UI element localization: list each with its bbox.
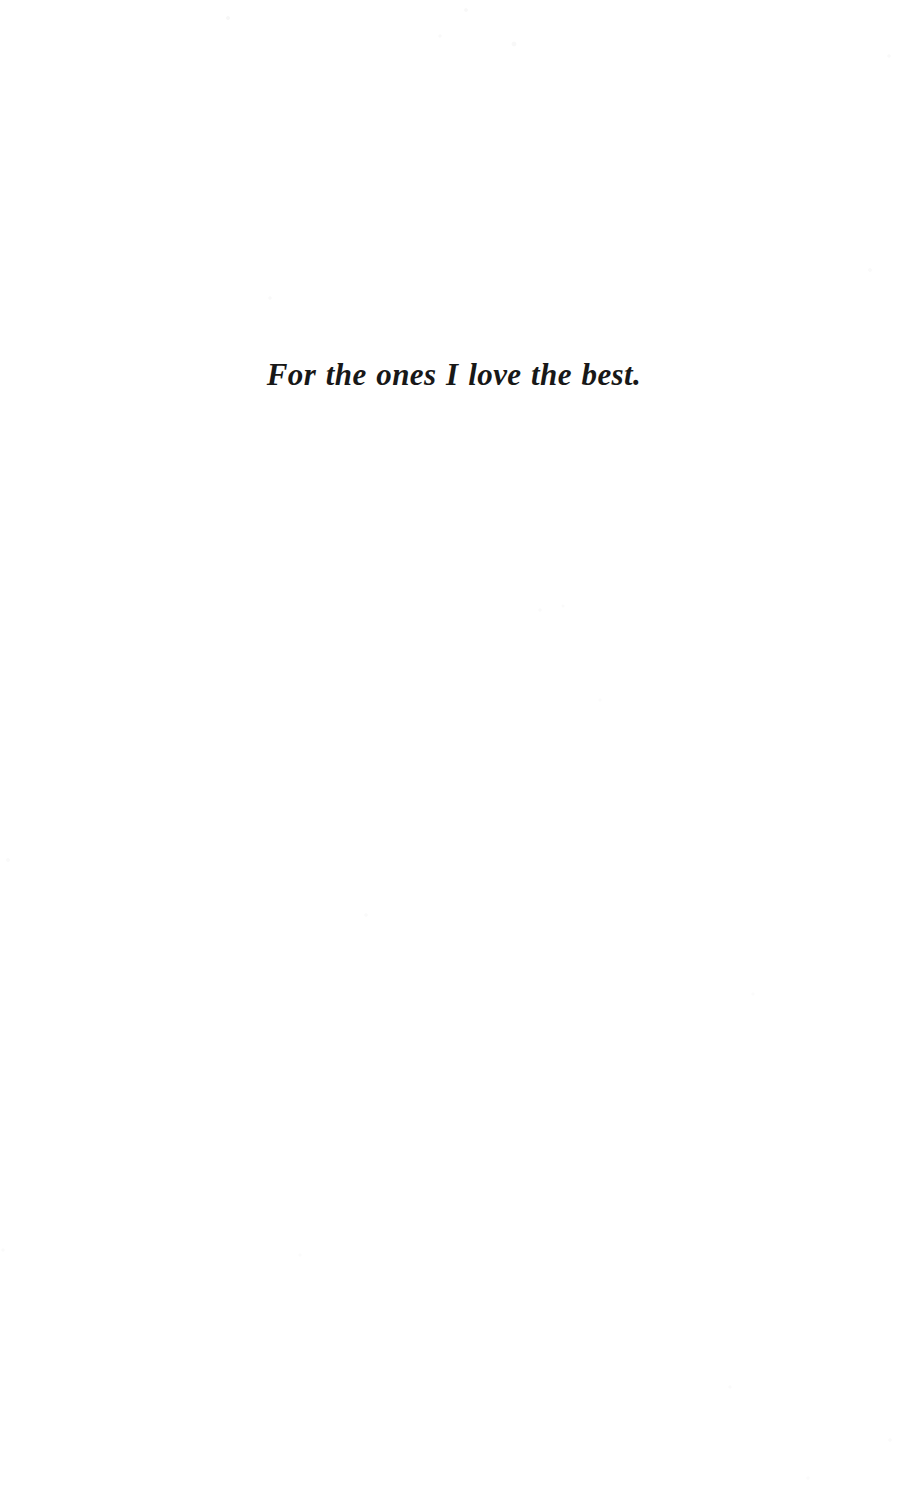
dedication-block: For the ones I love the best. [0, 356, 898, 394]
book-page: For the ones I love the best. [0, 0, 898, 1501]
scan-noise-artifacts [0, 0, 898, 1501]
dedication-text: For the ones I love the best. [267, 356, 642, 394]
